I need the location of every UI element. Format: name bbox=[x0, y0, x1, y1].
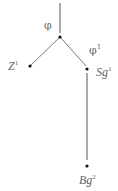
edge-root-z1 bbox=[30, 37, 60, 66]
bg2-label: Bg2 bbox=[79, 174, 96, 186]
edge-root-sg1 bbox=[60, 37, 86, 66]
sg1-edge-label: φ1 bbox=[89, 44, 101, 56]
sg1-label: Sg1 bbox=[96, 66, 112, 78]
bg2-label-sup: 2 bbox=[92, 173, 96, 181]
node-bg2-dot bbox=[85, 164, 88, 167]
sg1-edge-label-text: φ bbox=[89, 44, 97, 57]
z1-label-sup: 1 bbox=[15, 59, 19, 67]
bg2-label-text: Bg bbox=[79, 173, 92, 187]
tree-diagram bbox=[0, 0, 118, 191]
sg1-edge-label-sup: 1 bbox=[97, 43, 101, 51]
sg1-label-sup: 1 bbox=[108, 65, 112, 73]
root-label: φ bbox=[44, 20, 52, 31]
node-sg1-dot bbox=[85, 67, 88, 70]
z1-label: Z1 bbox=[8, 60, 18, 72]
root-label-text: φ bbox=[44, 19, 52, 32]
node-z1-dot bbox=[28, 64, 31, 67]
sg1-label-text: Sg bbox=[96, 65, 108, 79]
z1-label-text: Z bbox=[8, 59, 15, 73]
node-root-dot bbox=[58, 35, 61, 38]
